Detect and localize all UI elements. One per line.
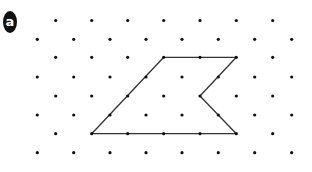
grid-dot xyxy=(162,132,165,135)
grid-dot xyxy=(144,151,147,154)
grid-dot xyxy=(253,75,256,78)
grid-dot xyxy=(54,94,57,97)
grid-dot xyxy=(271,94,274,97)
grid-dot xyxy=(126,132,129,135)
grid-dot xyxy=(271,132,274,135)
grid-dot xyxy=(36,38,39,41)
grid-dot xyxy=(108,151,111,154)
grid-dot xyxy=(144,75,147,78)
grid-dot xyxy=(217,75,220,78)
grid-dot xyxy=(290,113,293,116)
grid-dot xyxy=(72,151,75,154)
grid-dot xyxy=(36,75,39,78)
grid-dot xyxy=(90,132,93,135)
grid-dot xyxy=(126,94,129,97)
grid-dot xyxy=(180,151,183,154)
grid-dot xyxy=(271,19,274,22)
grid-dot xyxy=(162,19,165,22)
grid-dot xyxy=(162,56,165,59)
grid-dot xyxy=(198,19,201,22)
grid-dot xyxy=(290,151,293,154)
grid-dot xyxy=(235,94,238,97)
grid-dot xyxy=(198,94,201,97)
grid-dot xyxy=(253,38,256,41)
grid-dot xyxy=(54,56,57,59)
grid-dot xyxy=(180,113,183,116)
grid-dot xyxy=(108,38,111,41)
grid-dot xyxy=(235,132,238,135)
grid-dot xyxy=(290,38,293,41)
grid-dot xyxy=(144,38,147,41)
grid-dot xyxy=(72,75,75,78)
grid-dot xyxy=(36,151,39,154)
isometric-dot-grid xyxy=(36,19,294,154)
grid-dot xyxy=(90,56,93,59)
grid-dot xyxy=(144,113,147,116)
grid-dot xyxy=(217,38,220,41)
grid-dot xyxy=(90,94,93,97)
grid-dot xyxy=(126,56,129,59)
grid-dot xyxy=(108,75,111,78)
grid-dot xyxy=(54,132,57,135)
grid-dot xyxy=(235,19,238,22)
grid-dot xyxy=(54,19,57,22)
grid-dot xyxy=(72,38,75,41)
grid-dot xyxy=(290,75,293,78)
grid-dot xyxy=(253,151,256,154)
grid-dot xyxy=(72,113,75,116)
grid-dot xyxy=(198,132,201,135)
grid-dot xyxy=(90,19,93,22)
grid-dot xyxy=(217,151,220,154)
grid-dot xyxy=(126,19,129,22)
grid-dot xyxy=(217,113,220,116)
grid-dot xyxy=(253,113,256,116)
grid-dot xyxy=(271,56,274,59)
grid-dot xyxy=(108,113,111,116)
grid-dot xyxy=(235,56,238,59)
grid-dot xyxy=(180,75,183,78)
grid-dot xyxy=(198,56,201,59)
grid-dot xyxy=(180,38,183,41)
grid-dot xyxy=(36,113,39,116)
dot-grid-diagram xyxy=(0,0,312,172)
grid-dot xyxy=(162,94,165,97)
